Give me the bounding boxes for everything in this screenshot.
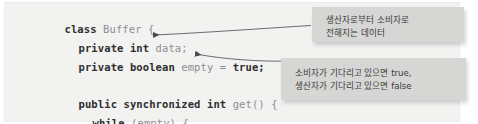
- code-token-keyword: private boolean: [79, 61, 182, 73]
- callout-data-field: 생산자로부터 소비자로 전해지는 데이터: [312, 7, 464, 42]
- callout-line-2: 생산자가 기다리고 있으면 false: [295, 80, 456, 93]
- callout-empty-field: 소비자가 기다리고 있으면 true, 생산자가 기다리고 있으면 false: [281, 58, 466, 100]
- code-line-empty-field: private boolean empty = true;: [40, 49, 265, 85]
- code-token-plain: get() {: [233, 98, 278, 110]
- code-token-plain: (empty) {: [131, 117, 189, 124]
- callout-line-2: 전해지는 데이터: [326, 27, 454, 40]
- code-token-keyword: while: [93, 117, 132, 124]
- code-token-plain: empty =: [181, 61, 232, 73]
- callout-line-1: 생산자로부터 소비자로: [326, 14, 454, 27]
- code-line-while: while (empty) {: [54, 105, 189, 124]
- code-figure: class Buffer { private int data; private…: [0, 0, 478, 124]
- callout-line-1: 소비자가 기다리고 있으면 true,: [295, 67, 456, 80]
- code-token-literal: true;: [233, 61, 265, 73]
